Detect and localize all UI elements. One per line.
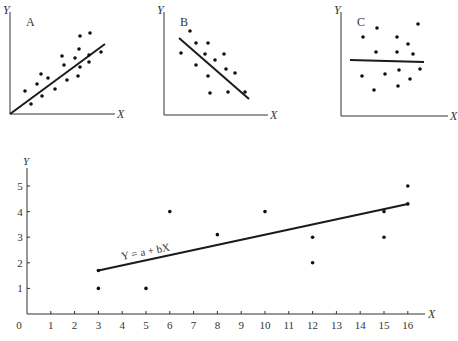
data-point <box>406 42 410 46</box>
small-plots: YXAYXBYXC <box>3 3 458 123</box>
data-point <box>208 91 212 95</box>
data-point <box>311 235 315 239</box>
data-point <box>194 63 198 67</box>
data-point <box>382 235 386 239</box>
data-point <box>360 74 364 78</box>
x-tick-label: 3 <box>96 319 102 331</box>
y-axis-label: Y <box>23 155 31 167</box>
x-tick-label: 6 <box>167 319 173 331</box>
data-point <box>40 94 44 98</box>
data-point <box>144 287 148 291</box>
x-tick-label: 5 <box>143 319 149 331</box>
data-point <box>216 233 220 237</box>
data-point <box>62 63 66 67</box>
data-point <box>311 261 315 265</box>
data-point <box>23 89 27 93</box>
y-tick-label: 4 <box>17 206 23 218</box>
regression-line <box>98 204 407 271</box>
x-tick-label: 16 <box>402 319 414 331</box>
data-point <box>406 202 410 206</box>
data-point <box>375 26 379 30</box>
data-point <box>395 50 399 54</box>
chart-canvas: YXAYXBYXC YX0123456789101112131415161234… <box>0 0 458 341</box>
data-point <box>233 71 237 75</box>
plot-title: A <box>26 15 35 29</box>
x-tick-label: 0 <box>16 319 22 331</box>
plot-a: YXA <box>3 3 125 121</box>
x-tick-label: 1 <box>48 319 54 331</box>
y-tick-label: 2 <box>17 257 23 269</box>
data-point <box>46 76 50 80</box>
x-tick-label: 15 <box>379 319 391 331</box>
data-point <box>406 184 410 188</box>
data-point <box>39 72 43 76</box>
data-point <box>73 56 77 60</box>
data-point <box>222 52 226 56</box>
data-point <box>203 52 207 56</box>
data-point <box>372 88 376 92</box>
data-point <box>416 22 420 26</box>
data-point <box>411 52 415 56</box>
data-point <box>194 41 198 45</box>
data-point <box>87 53 91 57</box>
data-point <box>97 269 101 273</box>
data-point <box>224 67 228 71</box>
data-point <box>97 287 101 291</box>
data-point <box>263 210 267 214</box>
data-point <box>60 54 64 58</box>
data-point <box>65 78 69 82</box>
data-point <box>397 68 401 72</box>
data-point <box>206 41 210 45</box>
x-tick-label: 14 <box>355 319 367 331</box>
data-point <box>78 34 82 38</box>
data-point <box>374 50 378 54</box>
data-point <box>77 47 81 51</box>
regression-equation: Y = a + bX <box>120 241 171 262</box>
x-tick-label: 8 <box>215 319 221 331</box>
x-tick-label: 12 <box>307 319 318 331</box>
data-point <box>99 50 103 54</box>
data-point <box>418 67 422 71</box>
data-point <box>383 72 387 76</box>
data-point <box>179 51 183 55</box>
data-point <box>76 74 80 78</box>
x-tick-label: 11 <box>284 319 295 331</box>
data-point <box>382 210 386 214</box>
data-point <box>243 90 247 94</box>
x-tick-label: 10 <box>260 319 272 331</box>
x-tick-label: 2 <box>72 319 78 331</box>
data-point <box>87 60 91 64</box>
x-tick-label: 4 <box>119 319 125 331</box>
data-point <box>35 82 39 86</box>
data-point <box>78 65 82 69</box>
x-tick-label: 13 <box>331 319 343 331</box>
data-point <box>396 84 400 88</box>
data-point <box>53 87 57 91</box>
data-point <box>206 74 210 78</box>
x-axis-label: X <box>269 108 278 122</box>
data-point <box>188 29 192 33</box>
data-point <box>395 35 399 39</box>
x-axis-label: X <box>116 107 125 121</box>
trend-line <box>350 60 424 62</box>
trend-line <box>179 38 249 99</box>
plot-title: B <box>180 15 188 29</box>
x-axis-label: X <box>427 307 436 321</box>
plot-c: YXC <box>334 3 458 123</box>
data-point <box>213 58 217 62</box>
y-tick-label: 3 <box>17 231 23 243</box>
data-point <box>168 210 172 214</box>
plot-title: C <box>357 15 365 29</box>
trend-line <box>10 44 105 114</box>
y-tick-label: 1 <box>17 282 23 294</box>
x-tick-label: 7 <box>191 319 197 331</box>
data-point <box>361 35 365 39</box>
data-point <box>408 77 412 81</box>
plot-b: YXB <box>157 3 278 122</box>
x-tick-label: 9 <box>238 319 244 331</box>
x-axis-label: X <box>449 109 458 123</box>
data-point <box>226 90 230 94</box>
data-point <box>29 102 33 106</box>
main-regression-plot: YX01234567891011121314151612345Y = a + b… <box>16 155 436 331</box>
data-point <box>88 31 92 35</box>
